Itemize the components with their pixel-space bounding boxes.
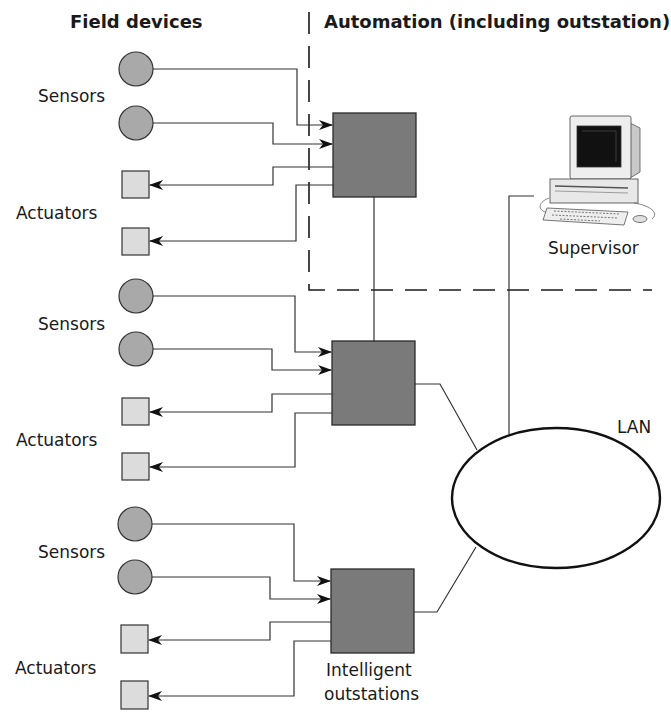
actuator-wire [150,185,333,241]
outstations-label-line1: Intelligent [326,660,412,680]
lan-ellipse [452,428,660,568]
header-field-devices: Field devices [70,11,203,32]
sensor-icon [119,279,153,313]
sensor-icon [119,332,153,366]
field-device-group-2: Sensors Actuators [16,279,153,480]
outstation-box-3 [331,569,414,653]
lan-label: LAN [617,417,651,437]
actuators-label: Actuators [16,430,98,450]
sensor-wire [152,577,330,599]
header-automation: Automation (including outstation) [324,11,670,32]
actuator-icon [122,228,149,255]
actuator-icon [122,453,149,480]
actuator-icon [122,171,149,198]
sensor-wire [152,524,330,581]
sensor-wire [153,123,332,144]
supervisor-label: Supervisor [548,238,639,258]
outstations-label-line2: outstations [324,684,419,704]
actuator-wire [149,641,331,696]
sensor-icon [118,560,152,594]
field-device-group-1: Sensors Actuators [16,52,153,255]
actuator-icon [122,398,149,425]
sensors-label: Sensors [38,314,105,334]
actuators-label: Actuators [16,203,98,223]
lan-link-supervisor [509,196,534,434]
sensor-icon [119,106,153,140]
computer-workstation-icon [540,116,654,225]
sensors-label: Sensors [38,86,105,106]
lan-link-outstation-3 [414,547,476,612]
actuator-wire [150,167,333,185]
actuator-wire [149,622,331,640]
sensor-icon [119,52,153,86]
actuator-icon [121,625,148,653]
actuator-icon [121,681,148,709]
outstation-box-1 [333,113,416,197]
sensors-label: Sensors [38,542,105,562]
sensor-wire [153,296,331,352]
actuator-wire [150,394,332,412]
outstation-box-2 [332,341,415,425]
sensor-wire [153,69,332,125]
lan-link-outstation-2 [415,384,477,450]
scada-architecture-diagram: Field devices Automation (including outs… [0,0,671,728]
sensor-icon [118,507,152,541]
actuator-wire [150,413,332,467]
field-device-group-3: Sensors Actuators [15,507,152,709]
actuators-label: Actuators [15,658,97,678]
